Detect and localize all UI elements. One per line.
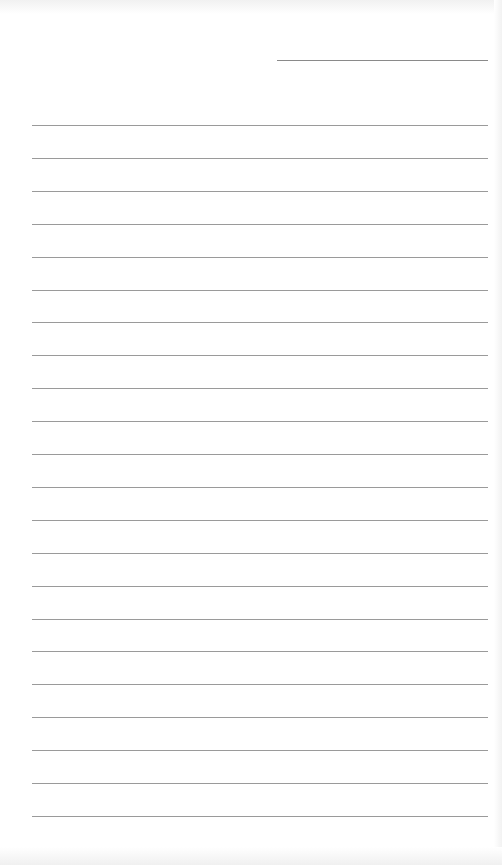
page-bottom-shadow	[0, 847, 502, 865]
ruled-line	[32, 717, 488, 718]
header-date-line	[277, 60, 488, 61]
ruled-line	[32, 586, 488, 587]
ruled-line	[32, 388, 488, 389]
ruled-line	[32, 783, 488, 784]
ruled-line	[32, 191, 488, 192]
page-top-shadow	[0, 0, 502, 14]
ruled-line	[32, 816, 488, 817]
ruled-line	[32, 355, 488, 356]
ruled-line	[32, 322, 488, 323]
ruled-line	[32, 684, 488, 685]
ruled-line	[32, 290, 488, 291]
ruled-line	[32, 224, 488, 225]
ruled-line	[32, 125, 488, 126]
ruled-line	[32, 158, 488, 159]
ruled-line	[32, 454, 488, 455]
ruled-line	[32, 651, 488, 652]
page-right-edge	[494, 0, 502, 865]
ruled-line	[32, 487, 488, 488]
ruled-line	[32, 750, 488, 751]
ruled-line	[32, 421, 488, 422]
ruled-line	[32, 619, 488, 620]
ruled-line	[32, 520, 488, 521]
ruled-line	[32, 553, 488, 554]
ruled-line	[32, 257, 488, 258]
